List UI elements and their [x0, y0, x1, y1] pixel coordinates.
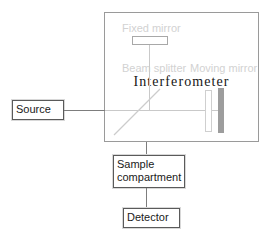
source-block[interactable]: Source — [12, 100, 64, 120]
sample-compartment-block[interactable]: Sample compartment — [113, 155, 185, 188]
sample-to-detector-connector — [146, 188, 147, 208]
beam-splitter-icon — [113, 88, 161, 136]
beam-splitter-label: Beam splitter — [122, 62, 186, 74]
source-label: Source — [16, 103, 51, 115]
moving-mirror-label: Moving mirror — [190, 62, 257, 74]
fixed-mirror-element — [132, 36, 168, 45]
interferometer-to-sample-connector — [146, 142, 147, 155]
beam-splitter-element — [113, 88, 161, 136]
fixed-mirror-label: Fixed mirror — [122, 22, 181, 34]
ftir-schematic-diagram: Fixed mirror Beam splitter Moving mirror… — [0, 0, 273, 247]
moving-mirror-element — [218, 88, 224, 133]
sample-compartment-label-line2: compartment — [117, 171, 181, 184]
source-to-interferometer-connector — [64, 110, 105, 111]
detector-label: Detector — [127, 211, 169, 223]
sample-compartment-label-line1: Sample — [117, 158, 181, 171]
detector-block[interactable]: Detector — [123, 208, 180, 228]
moving-mirror-frame — [205, 90, 212, 132]
